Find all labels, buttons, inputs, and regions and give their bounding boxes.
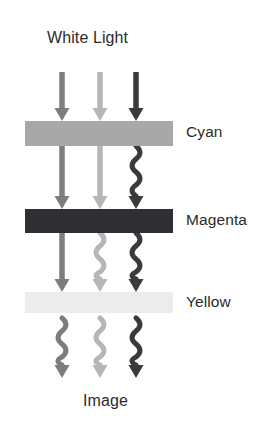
cyan-filter-label: Cyan <box>186 124 223 140</box>
filter-bar-cyan <box>25 121 173 146</box>
ray-segment-straight <box>59 146 65 196</box>
filter-bar-yellow <box>25 292 173 313</box>
ray-segment-straight <box>59 72 65 108</box>
subtractive-color-diagram: White Light Cyan Magenta Yellow Image <box>0 0 276 435</box>
white-light-label: White Light <box>47 30 128 46</box>
magenta-filter-label: Magenta <box>186 212 247 228</box>
filter-bar-magenta <box>25 209 173 233</box>
ray-segment-straight <box>97 146 103 196</box>
image-output-label: Image <box>83 393 128 409</box>
ray-segment-straight <box>97 72 103 108</box>
yellow-filter-label: Yellow <box>186 294 231 310</box>
ray-segment-straight <box>133 72 139 108</box>
ray-segment-straight <box>59 233 65 279</box>
